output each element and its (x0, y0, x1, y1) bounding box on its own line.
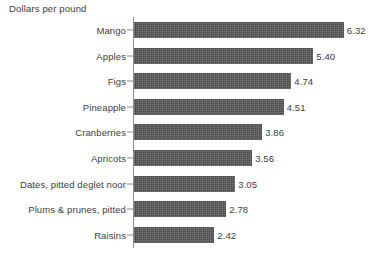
bar-value-label: 4.74 (294, 76, 313, 87)
category-axis-tick (127, 209, 133, 210)
bar (134, 150, 252, 166)
bar-row: Figs4.74 (0, 68, 374, 94)
category-axis-tick (127, 55, 133, 56)
bar-value-label: 5.40 (316, 50, 335, 61)
category-axis-tick (127, 30, 133, 31)
bar-category-label: Cranberries (75, 127, 126, 138)
bar-value-label: 2.42 (217, 229, 236, 240)
bar-row: Apples5.40 (0, 43, 374, 69)
bar-row: Apricots3.56 (0, 145, 374, 171)
chart-title: Dollars per pound (9, 3, 87, 14)
bar-category-label: Apples (96, 50, 126, 61)
bar (134, 22, 344, 38)
bar-row: Dates, pitted deglet noor3.05 (0, 171, 374, 197)
bar-row: Pineapple4.51 (0, 94, 374, 120)
bar (134, 227, 214, 243)
bar-category-label: Apricots (91, 153, 126, 164)
bar-row: Mango6.32 (0, 17, 374, 43)
category-axis-tick (127, 132, 133, 133)
bar-value-label: 3.86 (265, 127, 284, 138)
bar-category-label: Plums & prunes, pitted (28, 204, 126, 215)
bar (134, 176, 235, 192)
category-axis-tick (127, 183, 133, 184)
bar-category-label: Figs (108, 76, 126, 87)
bar-category-label: Raisins (94, 229, 126, 240)
category-axis-tick (127, 158, 133, 159)
bar (134, 201, 226, 217)
bar-value-label: 6.32 (347, 25, 366, 36)
bar-category-label: Dates, pitted deglet noor (20, 178, 126, 189)
bar-value-label: 3.05 (238, 178, 257, 189)
bar-value-label: 4.51 (287, 101, 306, 112)
bar-row: Raisins2.42 (0, 222, 374, 248)
bar-chart: Dollars per pound Mango6.32Apples5.40Fig… (0, 0, 374, 261)
bar (134, 99, 284, 115)
category-axis-tick (127, 81, 133, 82)
bar-value-label: 2.78 (229, 204, 248, 215)
bar-row: Cranberries3.86 (0, 119, 374, 145)
bar (134, 124, 262, 140)
category-axis-tick (127, 106, 133, 107)
plot-area: Mango6.32Apples5.40Figs4.74Pineapple4.51… (0, 17, 374, 253)
bar (134, 73, 291, 89)
bar-category-label: Pineapple (83, 101, 126, 112)
bar (134, 48, 313, 64)
category-axis-tick (127, 234, 133, 235)
bar-category-label: Mango (96, 25, 126, 36)
bar-value-label: 3.56 (255, 153, 274, 164)
bar-row: Plums & prunes, pitted2.78 (0, 196, 374, 222)
